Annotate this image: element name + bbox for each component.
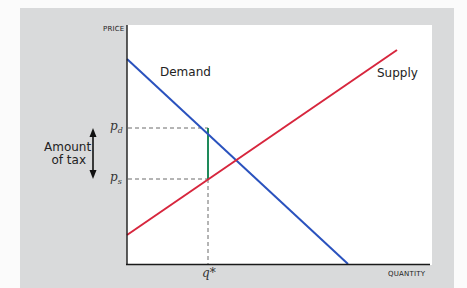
ps-main: p: [110, 170, 118, 184]
pd-main: p: [110, 119, 118, 133]
supply-label: Supply: [377, 66, 418, 80]
ps-label: ps: [110, 170, 122, 186]
tax-label-line2: of tax: [44, 154, 86, 167]
ps-sub: s: [118, 177, 122, 186]
q-star-label: q*: [202, 266, 216, 280]
pd-sub: d: [118, 126, 123, 135]
pd-label: pd: [110, 119, 123, 135]
amount-of-tax-label: Amount of tax: [44, 141, 86, 167]
demand-label: Demand: [160, 65, 211, 79]
y-axis-label: PRICE: [103, 25, 124, 33]
x-axis-label: QUANTITY: [388, 270, 425, 278]
demand-curve: [127, 59, 348, 264]
